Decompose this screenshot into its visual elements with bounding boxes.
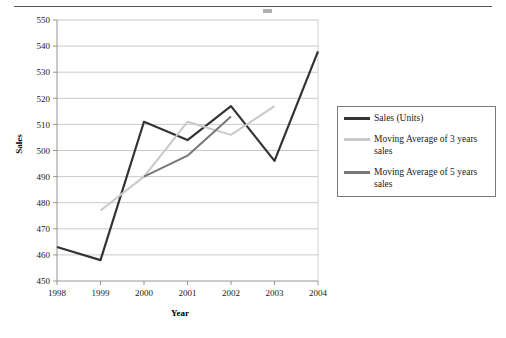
legend-swatch-icon: [344, 138, 370, 141]
svg-text:2000: 2000: [135, 288, 154, 298]
svg-text:490: 490: [37, 172, 51, 182]
svg-text:500: 500: [37, 146, 51, 156]
legend-item: Moving Average of 3 years sales: [341, 133, 492, 157]
gridlines: [57, 20, 318, 255]
line-chart-svg: 450460470480490500510520530540550 199819…: [0, 0, 330, 300]
legend-item: Sales (Units): [341, 112, 492, 124]
legend-item: Moving Average of 5 years sales: [341, 166, 492, 190]
svg-text:2001: 2001: [179, 288, 197, 298]
legend-item-label: Moving Average of 5 years sales: [374, 166, 492, 190]
svg-text:1998: 1998: [48, 288, 67, 298]
svg-text:450: 450: [37, 276, 51, 286]
svg-text:520: 520: [37, 94, 51, 104]
svg-text:540: 540: [37, 41, 51, 51]
svg-text:480: 480: [37, 198, 51, 208]
y-axis-ticks: [53, 20, 57, 281]
y-axis-tick-labels: 450460470480490500510520530540550: [37, 15, 51, 286]
x-axis-ticks: [57, 281, 318, 285]
legend-item-label: Sales (Units): [374, 112, 492, 124]
chart-legend: Sales (Units) Moving Average of 3 years …: [337, 106, 496, 197]
legend-swatch-icon: [344, 117, 370, 120]
svg-text:530: 530: [37, 67, 51, 77]
svg-text:510: 510: [37, 120, 51, 130]
chart-figure: 450460470480490500510520530540550 199819…: [0, 0, 506, 338]
svg-text:2002: 2002: [222, 288, 240, 298]
plot-area: 450460470480490500510520530540550 199819…: [0, 0, 330, 300]
svg-text:550: 550: [37, 15, 51, 25]
svg-text:460: 460: [37, 250, 51, 260]
legend-swatch-icon: [344, 171, 370, 174]
svg-text:470: 470: [37, 224, 51, 234]
legend-item-label: Moving Average of 3 years sales: [374, 133, 492, 157]
svg-text:1999: 1999: [92, 288, 111, 298]
svg-text:2004: 2004: [309, 288, 328, 298]
x-axis-title: Year: [40, 308, 320, 318]
x-axis-tick-labels: 1998199920002001200220032004: [48, 288, 328, 298]
svg-text:2003: 2003: [266, 288, 285, 298]
y-axis-title: Sales: [14, 119, 24, 169]
